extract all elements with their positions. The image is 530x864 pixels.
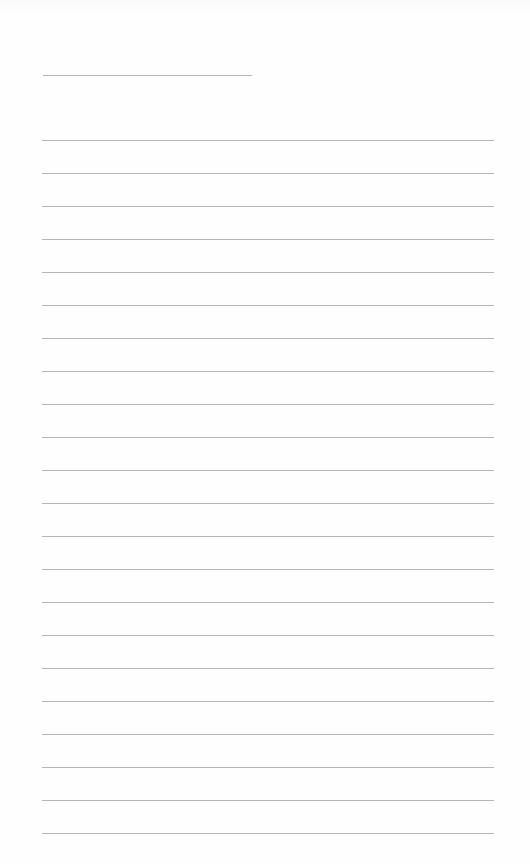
- ruled-line: [42, 437, 494, 438]
- ruled-line: [42, 635, 494, 636]
- ruled-line: [42, 338, 494, 339]
- ruled-line: [42, 767, 494, 768]
- ruled-line: [42, 734, 494, 735]
- ruled-line: [42, 173, 494, 174]
- ruled-line: [42, 371, 494, 372]
- ruled-line: [42, 272, 494, 273]
- lined-paper-page: [0, 0, 530, 864]
- ruled-lines-container: [42, 0, 494, 864]
- ruled-line: [42, 536, 494, 537]
- ruled-line: [42, 503, 494, 504]
- ruled-line: [42, 833, 494, 834]
- ruled-line: [42, 206, 494, 207]
- ruled-line: [42, 668, 494, 669]
- ruled-line: [42, 569, 494, 570]
- ruled-line: [42, 800, 494, 801]
- ruled-line: [42, 404, 494, 405]
- ruled-line: [42, 305, 494, 306]
- ruled-line: [42, 602, 494, 603]
- ruled-line: [42, 470, 494, 471]
- ruled-line: [42, 239, 494, 240]
- ruled-line: [42, 701, 494, 702]
- ruled-line: [42, 140, 494, 141]
